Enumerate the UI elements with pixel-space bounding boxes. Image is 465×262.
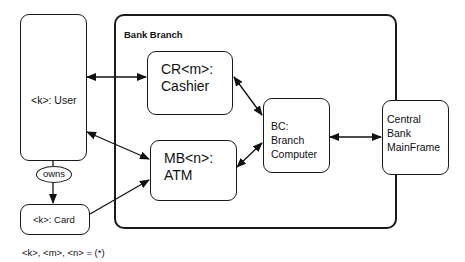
cashier-line1: CR<m>: — [161, 61, 213, 78]
branch-computer-node: BC: Branch Computer — [263, 98, 330, 173]
central-line2: Bank — [387, 127, 411, 140]
atm-line1: MB<n>: — [164, 150, 213, 167]
owns-label: owns — [43, 168, 65, 179]
cashier-line2: Cashier — [161, 78, 209, 95]
bank-branch-title: Bank Branch — [124, 28, 183, 41]
card-node: <k>: Card — [20, 204, 90, 235]
bc-line2: Branch — [271, 134, 304, 147]
bc-line1: BC: — [271, 120, 289, 133]
atm-line2: ATM — [164, 167, 193, 184]
owns-relation-ellipse: owns — [36, 166, 72, 183]
footnote: <k>, <m>, <n> = (*) — [22, 246, 105, 259]
central-line3: MainFrame — [387, 141, 440, 154]
central-line1: Central — [387, 113, 421, 126]
user-node: <k>: User — [20, 14, 87, 161]
cashier-node: CR<m>: Cashier — [147, 51, 233, 115]
user-label: <k>: User — [31, 94, 77, 107]
card-label: <k>: Card — [33, 213, 75, 226]
bc-line3: Computer — [271, 148, 317, 161]
atm-node: MB<n>: ATM — [150, 140, 237, 201]
central-mainframe-node: Central Bank MainFrame — [382, 100, 449, 175]
